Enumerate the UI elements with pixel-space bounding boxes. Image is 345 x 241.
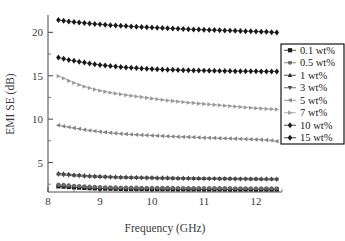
data-point: [223, 186, 227, 190]
data-point: [166, 186, 170, 190]
data-point: [72, 184, 76, 188]
data-point: [150, 25, 155, 31]
data-point: [207, 27, 212, 33]
data-point: [145, 186, 149, 190]
data-point: [161, 98, 165, 102]
series-7-wt-: [57, 74, 280, 112]
data-point: [61, 18, 66, 24]
data-point: [192, 101, 196, 105]
legend-marker-square-icon: [288, 48, 292, 52]
data-point: [223, 103, 227, 107]
data-point: [165, 134, 169, 138]
y-axis-ticks: [48, 32, 53, 184]
data-point: [124, 93, 128, 97]
data-point: [109, 90, 113, 94]
data-point: [249, 106, 253, 110]
data-point: [191, 26, 196, 32]
data-point: [129, 94, 133, 98]
data-point: [254, 137, 258, 141]
data-point: [140, 186, 144, 190]
data-point: [103, 185, 107, 189]
data-point: [264, 186, 268, 190]
data-point: [265, 107, 269, 111]
data-point: [62, 183, 66, 187]
data-point: [82, 184, 86, 188]
data-point: [77, 127, 81, 131]
data-point: [269, 68, 274, 74]
data-point: [108, 185, 112, 189]
data-point: [103, 89, 107, 93]
data-point: [228, 68, 233, 74]
data-point: [176, 67, 181, 73]
legend-label: 7 wt%: [300, 107, 327, 118]
data-point: [150, 133, 154, 137]
data-point: [187, 100, 191, 104]
data-point: [77, 19, 82, 25]
data-point: [197, 186, 201, 190]
data-point: [228, 186, 232, 190]
data-series-group: [56, 17, 279, 192]
data-point: [176, 26, 181, 32]
data-point: [202, 27, 207, 33]
data-point: [218, 186, 222, 190]
data-point: [228, 104, 232, 108]
data-point: [56, 17, 61, 23]
data-point: [275, 186, 279, 190]
data-point: [72, 126, 76, 130]
data-point: [124, 132, 128, 136]
data-point: [134, 24, 139, 30]
data-point: [212, 27, 217, 33]
data-point: [213, 103, 217, 107]
data-point: [223, 27, 228, 33]
data-point: [88, 185, 92, 189]
data-point: [135, 94, 139, 98]
data-point: [98, 88, 102, 92]
data-point: [134, 65, 139, 71]
data-point: [202, 135, 206, 139]
data-point: [233, 28, 238, 34]
data-point: [56, 183, 60, 187]
data-point: [129, 65, 134, 71]
data-point: [124, 185, 128, 189]
data-point: [244, 105, 248, 109]
data-point: [160, 66, 165, 72]
data-point: [103, 130, 107, 134]
data-point: [254, 28, 259, 34]
data-point: [202, 102, 206, 106]
data-point: [212, 186, 216, 190]
data-point: [93, 185, 97, 189]
data-point: [108, 22, 113, 28]
data-point: [176, 135, 180, 139]
data-point: [67, 183, 71, 187]
data-point: [150, 186, 154, 190]
data-point: [93, 87, 97, 91]
data-point: [181, 135, 185, 139]
data-point: [233, 104, 237, 108]
series-5-wt-: [56, 123, 279, 143]
data-point: [176, 99, 180, 103]
data-point: [129, 186, 133, 190]
series-10-wt-: [56, 55, 279, 75]
data-point: [72, 19, 77, 25]
data-point: [103, 22, 108, 28]
data-point: [72, 58, 77, 64]
data-point: [243, 68, 248, 74]
data-point: [119, 23, 124, 29]
x-tick-label: 8: [45, 195, 51, 207]
legend-label: 0.1 wt%: [300, 45, 335, 56]
emi-se-chart-figure: 5101520 89101112 Frequency (GHz) EMI SE …: [0, 0, 345, 241]
data-point: [61, 124, 65, 128]
data-point: [170, 134, 174, 138]
data-point: [113, 23, 118, 29]
data-point: [217, 27, 222, 33]
data-point: [275, 30, 280, 36]
data-point: [139, 133, 143, 137]
legend-marker-circle-icon: [288, 61, 292, 65]
data-point: [93, 21, 98, 27]
data-point: [181, 100, 185, 104]
series-15-wt-: [56, 17, 279, 35]
legend-label: 5 wt%: [300, 95, 327, 106]
data-point: [207, 102, 211, 106]
data-point: [119, 92, 123, 96]
data-point: [244, 186, 248, 190]
